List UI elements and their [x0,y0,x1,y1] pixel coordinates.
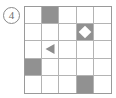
grid-cell-r5-c1[interactable] [25,76,42,93]
grid-cell-r1-c2[interactable] [42,7,59,24]
grid-cell-r5-c4[interactable] [77,76,94,93]
grid-cell-r5-c2[interactable] [42,76,59,93]
grid-cell-r1-c1[interactable] [25,7,42,24]
grid-cell-r1-c4[interactable] [77,7,94,24]
grid-cell-r4-c4[interactable] [77,59,94,76]
grid-cell-r3-c5[interactable] [94,41,111,58]
grid-cell-r4-c2[interactable] [42,59,59,76]
grid-cell-r2-c4[interactable] [77,24,94,41]
grid-cell-r4-c5[interactable] [94,59,111,76]
grid-cell-r5-c5[interactable] [94,76,111,93]
grid-cell-r2-c3[interactable] [59,24,76,41]
diamond-icon [78,26,91,39]
puzzle-figure: 4 [0,0,116,98]
grid-cell-r2-c5[interactable] [94,24,111,41]
puzzle-grid [24,6,112,94]
grid-cell-r2-c2[interactable] [42,24,59,41]
grid-cell-r3-c2[interactable] [42,41,59,58]
grid-cell-r3-c3[interactable] [59,41,76,58]
grid-cell-r4-c3[interactable] [59,59,76,76]
grid-cell-r3-c4[interactable] [77,41,94,58]
triangle-left-icon [46,44,55,54]
grid-cell-r5-c3[interactable] [59,76,76,93]
grid-cell-r1-c5[interactable] [94,7,111,24]
grid-cell-r1-c3[interactable] [59,7,76,24]
item-number-badge: 4 [3,7,20,24]
grid-cell-r2-c1[interactable] [25,24,42,41]
grid-cell-r4-c1[interactable] [25,59,42,76]
grid-cell-r3-c1[interactable] [25,41,42,58]
